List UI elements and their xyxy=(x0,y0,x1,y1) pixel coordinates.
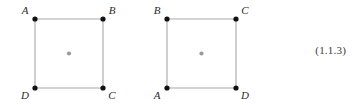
rotated-vertex-dot-bottom-left xyxy=(164,85,169,90)
square-unrotated-center-dot xyxy=(67,51,71,55)
vertex-dot-top-right xyxy=(100,16,105,21)
rotated-vertex-label-top-right: C xyxy=(241,4,249,16)
square-rotated-group: B C D A xyxy=(153,4,250,101)
vertex-dot-top-left xyxy=(32,16,37,21)
square-rotation-diagram: A B C D B C D A xyxy=(0,0,352,105)
vertex-label-top-left: A xyxy=(21,4,29,16)
rotated-vertex-dot-bottom-right xyxy=(233,85,238,90)
vertex-dot-bottom-left xyxy=(32,85,37,90)
square-rotated-center-dot xyxy=(199,51,203,55)
rotated-vertex-label-bottom-left: A xyxy=(153,89,161,101)
equation-number: (1.1.3) xyxy=(315,44,346,56)
square-unrotated-group: A B C D xyxy=(20,4,116,101)
rotated-vertex-label-bottom-right: D xyxy=(240,89,249,101)
vertex-label-bottom-right: C xyxy=(108,89,116,101)
vertex-label-bottom-left: D xyxy=(20,89,29,101)
rotated-vertex-dot-top-right xyxy=(233,16,238,21)
vertex-label-top-right: B xyxy=(109,4,116,16)
vertex-dot-bottom-right xyxy=(100,85,105,90)
rotated-vertex-dot-top-left xyxy=(164,16,169,21)
figure-container: A B C D B C D A (1.1.3) xyxy=(0,0,352,105)
rotated-vertex-label-top-left: B xyxy=(154,4,161,16)
